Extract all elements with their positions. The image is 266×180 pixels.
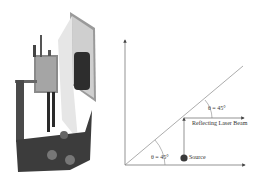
lower-angle-arc <box>155 140 165 165</box>
mirror-device-illustration <box>0 0 110 180</box>
diagram-lines <box>110 0 266 180</box>
lower-angle-label: θ = 45° <box>151 154 169 160</box>
beam-label: Reflecting Laser Beam <box>192 120 247 126</box>
upper-angle-label: θ = 45° <box>208 105 226 111</box>
source-label: Source <box>189 154 206 160</box>
source-dot <box>180 154 187 161</box>
reflection-diagram: θ = 45° Reflecting Laser Beam θ = 45° So… <box>110 0 266 180</box>
device-photo <box>0 0 110 180</box>
